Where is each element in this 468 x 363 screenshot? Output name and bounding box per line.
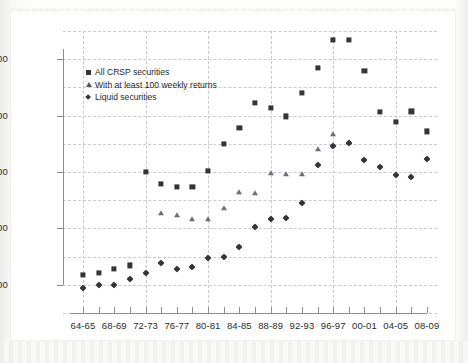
x-axis-tick xyxy=(411,307,412,313)
y-gridline xyxy=(63,285,437,286)
data-point-triangle xyxy=(268,171,274,176)
data-point-triangle xyxy=(189,216,195,221)
x-axis-tick xyxy=(83,307,84,313)
data-point-square xyxy=(346,37,351,42)
x-gridline xyxy=(333,31,334,313)
diamond-marker-icon xyxy=(85,94,91,100)
x-axis-label: 68-69 xyxy=(102,320,127,331)
x-axis-tick xyxy=(380,307,381,313)
x-axis-tick xyxy=(239,307,240,313)
x-axis-label: 64-65 xyxy=(71,320,96,331)
x-axis-tick xyxy=(349,307,350,313)
x-axis-label: 80-81 xyxy=(196,320,221,331)
x-axis-tick xyxy=(114,307,115,313)
data-point-square xyxy=(424,129,429,134)
data-point-square xyxy=(331,37,336,42)
chart-legend: All CRSP securities With at least 100 we… xyxy=(86,66,217,104)
data-point-diamond xyxy=(377,163,384,170)
triangle-marker-icon xyxy=(86,82,92,87)
data-point-diamond xyxy=(392,172,399,179)
data-point-square xyxy=(299,90,304,95)
x-axis-tick xyxy=(224,307,225,313)
data-point-diamond xyxy=(283,214,290,221)
legend-item-100-weekly-returns: With at least 100 weekly returns xyxy=(86,79,217,92)
x-axis-tick xyxy=(192,307,193,313)
data-point-triangle xyxy=(205,216,211,221)
data-point-triangle xyxy=(283,171,289,176)
data-point-triangle xyxy=(315,146,321,151)
data-point-diamond xyxy=(158,260,165,267)
data-point-diamond xyxy=(173,266,180,273)
data-point-diamond xyxy=(408,174,415,181)
y-axis-tick xyxy=(57,228,63,229)
x-axis-tick xyxy=(146,307,147,313)
y-gridline xyxy=(63,228,437,229)
x-axis-label: 04-05 xyxy=(383,320,408,331)
data-point-triangle xyxy=(330,132,336,137)
data-point-square xyxy=(221,141,226,146)
y-gridline xyxy=(63,116,437,117)
data-point-square xyxy=(205,168,210,173)
data-point-square xyxy=(252,101,257,106)
y-axis-line xyxy=(63,49,64,285)
x-axis-tick xyxy=(333,307,334,313)
x-axis-tick xyxy=(396,307,397,313)
y-gridline xyxy=(63,172,437,173)
y-axis-tick xyxy=(57,59,63,60)
data-point-square xyxy=(268,105,273,110)
y-axis-label: 4000 xyxy=(0,222,8,233)
x-axis-tick xyxy=(99,307,100,313)
data-point-square xyxy=(159,182,164,187)
screenshot-root: All CRSP securities With at least 100 we… xyxy=(0,0,468,363)
x-axis-label: 88-89 xyxy=(258,320,283,331)
x-axis-tick xyxy=(177,307,178,313)
data-point-diamond xyxy=(361,156,368,163)
data-point-square xyxy=(377,110,382,115)
data-point-diamond xyxy=(189,263,196,270)
x-axis-tick xyxy=(364,307,365,313)
data-point-diamond xyxy=(423,155,430,162)
y-axis-label: 2000 xyxy=(0,279,8,290)
data-point-triangle xyxy=(174,212,180,217)
data-point-square xyxy=(362,68,367,73)
x-axis-label: 00-01 xyxy=(352,320,377,331)
x-axis-tick xyxy=(130,307,131,313)
x-axis-tick xyxy=(161,307,162,313)
data-point-diamond xyxy=(126,275,133,282)
data-point-square xyxy=(409,109,414,114)
y-axis-label: 6000 xyxy=(0,166,8,177)
data-point-square xyxy=(127,263,132,268)
y-axis-tick xyxy=(57,116,63,117)
scatter-chart: All CRSP securities With at least 100 we… xyxy=(11,11,455,340)
data-point-diamond xyxy=(142,270,149,277)
data-point-triangle xyxy=(236,190,242,195)
x-axis-line xyxy=(71,313,427,314)
y-gridline xyxy=(63,31,437,32)
x-axis-label: 72-73 xyxy=(133,320,158,331)
data-point-diamond xyxy=(220,254,227,261)
x-axis-tick xyxy=(286,307,287,313)
y-gridline xyxy=(63,59,437,60)
data-point-square xyxy=(80,273,85,278)
legend-label-100-weekly-returns: With at least 100 weekly returns xyxy=(95,79,217,92)
x-axis-tick xyxy=(318,307,319,313)
data-point-square xyxy=(315,65,320,70)
y-axis-label: 8000 xyxy=(0,110,8,121)
x-gridline xyxy=(83,31,84,313)
data-point-diamond xyxy=(314,162,321,169)
data-point-triangle xyxy=(299,171,305,176)
data-point-diamond xyxy=(236,243,243,250)
data-point-triangle xyxy=(221,205,227,210)
data-point-square xyxy=(237,125,242,130)
legend-item-all-crsp: All CRSP securities xyxy=(86,66,217,79)
data-point-triangle xyxy=(158,210,164,215)
data-point-square xyxy=(96,270,101,275)
y-gridline xyxy=(63,200,437,201)
data-point-diamond xyxy=(267,216,274,223)
data-point-diamond xyxy=(111,282,118,289)
legend-item-liquid-securities: Liquid securities xyxy=(86,91,217,104)
data-point-square xyxy=(143,169,148,174)
legend-label-all-crsp: All CRSP securities xyxy=(95,66,169,79)
y-axis-tick xyxy=(57,172,63,173)
y-axis-tick xyxy=(57,285,63,286)
